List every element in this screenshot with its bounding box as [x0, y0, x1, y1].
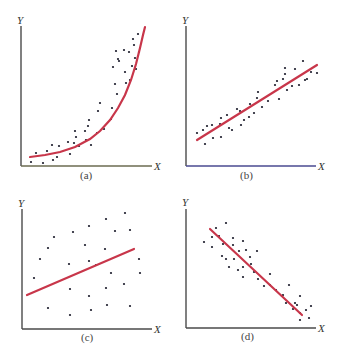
- data-point: [310, 71, 312, 73]
- data-point: [88, 260, 90, 262]
- data-point: [269, 273, 271, 275]
- data-point: [231, 129, 233, 131]
- x-label-c: X: [153, 323, 162, 335]
- data-point: [88, 119, 90, 121]
- data-point: [42, 162, 44, 164]
- data-point: [137, 33, 139, 35]
- data-point: [202, 129, 204, 131]
- data-point: [139, 272, 141, 274]
- data-point: [245, 249, 247, 251]
- data-point: [90, 309, 92, 311]
- fit-line-b: [197, 65, 317, 140]
- data-point: [316, 72, 318, 74]
- data-point: [88, 225, 90, 227]
- data-point: [88, 295, 90, 297]
- caption-b: (b): [240, 169, 253, 182]
- data-point: [243, 119, 245, 121]
- data-point: [105, 287, 107, 289]
- data-point: [30, 161, 32, 163]
- data-point: [206, 125, 208, 127]
- x-label-a: X: [153, 160, 162, 172]
- data-point: [306, 78, 308, 80]
- data-point: [256, 97, 258, 99]
- data-point: [133, 44, 135, 46]
- data-point: [221, 255, 223, 257]
- data-point: [118, 60, 120, 62]
- data-point: [212, 137, 214, 139]
- data-point: [225, 222, 227, 224]
- data-point: [249, 103, 251, 105]
- data-point: [69, 288, 71, 290]
- panel-d: Y X (d): [182, 196, 326, 343]
- data-point: [220, 117, 222, 119]
- panel-b: Y X (b): [182, 14, 326, 182]
- data-point: [46, 150, 48, 152]
- data-point: [128, 51, 130, 53]
- data-point: [47, 247, 49, 249]
- data-point: [282, 78, 284, 80]
- data-point: [90, 144, 92, 146]
- y-label-c: Y: [18, 197, 26, 209]
- data-point: [257, 91, 259, 93]
- data-point: [215, 227, 217, 229]
- data-point: [286, 89, 288, 91]
- data-point: [56, 156, 58, 158]
- caption-c: (c): [81, 331, 94, 344]
- data-point: [123, 49, 125, 51]
- data-point: [304, 79, 306, 81]
- data-point: [110, 272, 112, 274]
- data-point: [114, 230, 116, 232]
- data-point: [257, 278, 259, 280]
- data-point: [104, 248, 106, 250]
- data-point: [240, 124, 242, 126]
- data-point: [84, 244, 86, 246]
- data-point: [236, 108, 238, 110]
- y-label-a: Y: [17, 14, 25, 26]
- data-point: [35, 152, 37, 154]
- data-point: [284, 73, 286, 75]
- data-point: [97, 110, 99, 112]
- data-point: [288, 284, 290, 286]
- data-point: [58, 145, 60, 147]
- data-point: [123, 283, 125, 285]
- data-point: [278, 98, 280, 100]
- data-point: [53, 236, 55, 238]
- data-point: [114, 83, 116, 85]
- data-point: [196, 132, 198, 134]
- data-point: [263, 285, 265, 287]
- data-point: [305, 309, 307, 311]
- x-label-b: X: [317, 160, 326, 172]
- data-point: [242, 276, 244, 278]
- data-point: [72, 231, 74, 233]
- data-point: [51, 144, 53, 146]
- data-point: [228, 127, 230, 129]
- figure: Y X (a) Y X (b) Y X (c) Y X (d): [0, 0, 344, 354]
- data-point: [47, 307, 49, 309]
- caption-d: (d): [241, 330, 254, 343]
- data-point: [248, 116, 250, 118]
- y-label-b: Y: [182, 14, 190, 26]
- data-point: [131, 65, 133, 67]
- data-point: [111, 107, 113, 109]
- data-point: [74, 130, 76, 132]
- data-point: [298, 84, 300, 86]
- data-point: [291, 85, 293, 87]
- data-point: [299, 319, 301, 321]
- data-point: [310, 305, 312, 307]
- data-point: [299, 295, 301, 297]
- data-point: [116, 93, 118, 95]
- data-point: [52, 159, 54, 161]
- data-point: [242, 266, 244, 268]
- data-point: [249, 256, 251, 258]
- data-point: [129, 229, 131, 231]
- data-point: [294, 302, 296, 304]
- caption-a: (a): [80, 169, 93, 182]
- data-point: [134, 57, 136, 59]
- data-point: [256, 250, 258, 252]
- data-point: [261, 106, 263, 108]
- data-point: [117, 58, 119, 60]
- data-point: [204, 143, 206, 145]
- data-point: [132, 38, 134, 40]
- data-point: [68, 263, 70, 265]
- data-point: [242, 240, 244, 242]
